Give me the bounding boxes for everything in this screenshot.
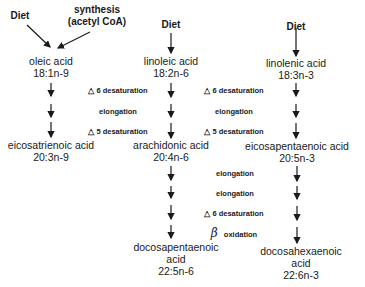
- delta-icon: △: [204, 127, 210, 136]
- eicosatrienoic-acid-formula: 20:3n-9: [8, 151, 94, 163]
- middle-diet-label: Diet: [162, 19, 181, 30]
- arachidonic-acid-name: arachidonic acid: [133, 139, 209, 151]
- eicosapentaenoic-acid: eicosapentaenoic acid 20:5n-3: [245, 140, 349, 164]
- oleic-acid-formula: 18:1n-9: [29, 67, 73, 79]
- docosahexaenoic-acid-name: docosahexaenoic: [260, 245, 342, 257]
- delta-icon: △: [88, 127, 94, 136]
- docosahexaenoic-acid: docosahexaenoic acid 22:6n-3: [260, 245, 342, 281]
- right-step-5-desaturation: △ 5 desaturation: [204, 127, 263, 136]
- left-step-6-desaturation: △ 6 desaturation: [88, 86, 147, 95]
- linolenic-acid: linolenic acid 18:3n-3: [266, 57, 326, 81]
- delta-icon: △: [204, 209, 210, 218]
- lower-step-6-desaturation: △ 6 desaturation: [204, 209, 263, 218]
- lower-step-elongation-2: elongation: [216, 189, 254, 198]
- linolenic-acid-formula: 18:3n-3: [266, 69, 326, 81]
- lower-step-elongation-1: elongation: [216, 169, 254, 178]
- docosapentaenoic-acid: docosapentaenoic acid 22:5n-6: [133, 241, 218, 277]
- diet-to-oleic-arrow: [27, 25, 50, 47]
- left-step-elongation: elongation: [99, 107, 137, 116]
- eicosapentaenoic-acid-name: eicosapentaenoic acid: [245, 140, 349, 152]
- right-step-6-desaturation: △ 6 desaturation: [204, 86, 263, 95]
- right-diet-label: Diet: [287, 21, 306, 32]
- eicosatrienoic-acid: eicosatrienoic acid 20:3n-9: [8, 139, 94, 163]
- eicosatrienoic-acid-name: eicosatrienoic acid: [8, 139, 94, 151]
- beta-icon: β: [211, 226, 218, 240]
- delta-icon: △: [88, 86, 94, 95]
- synthesis-label: synthesis: [74, 4, 120, 15]
- docosapentaenoic-acid-formula: 22:5n-6: [133, 265, 218, 277]
- linoleic-acid-name: linoleic acid: [144, 55, 198, 67]
- linoleic-acid-formula: 18:2n-6: [144, 67, 198, 79]
- eicosapentaenoic-acid-formula: 20:5n-3: [245, 152, 349, 164]
- linolenic-acid-name: linolenic acid: [266, 57, 326, 69]
- delta-icon: △: [204, 86, 210, 95]
- oleic-acid-name: oleic acid: [29, 55, 73, 67]
- oleic-acid: oleic acid 18:1n-9: [29, 55, 73, 79]
- left-diet-label: Diet: [11, 10, 30, 21]
- lower-step-beta-oxidation: β oxidation: [211, 226, 257, 240]
- right-step-elongation: elongation: [215, 107, 253, 116]
- acetyl-coa-label: (acetyl CoA): [68, 16, 126, 27]
- docosapentaenoic-acid-name: docosapentaenoic: [133, 241, 218, 253]
- arachidonic-acid: arachidonic acid 20:4n-6: [133, 139, 209, 163]
- docosahexaenoic-acid-formula: 22:6n-3: [260, 269, 342, 281]
- arachidonic-acid-formula: 20:4n-6: [133, 151, 209, 163]
- linoleic-acid: linoleic acid 18:2n-6: [144, 55, 198, 79]
- synthesis-to-oleic-arrow: [58, 32, 90, 48]
- left-step-5-desaturation: △ 5 desaturation: [88, 127, 147, 136]
